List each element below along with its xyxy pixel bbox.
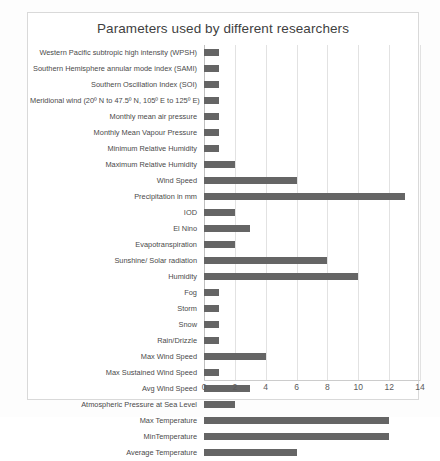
bar-row [204,109,420,125]
bar[interactable] [204,433,389,440]
x-tick-label: 4 [263,382,268,392]
category-label: Minimum Relative Humidity [30,141,200,157]
category-label: Fog [30,285,200,301]
bar-row [204,285,420,301]
bar-row [204,349,420,365]
category-label: Max Sustained Wind Speed [30,365,200,381]
x-tick-label: 12 [384,382,393,392]
bar[interactable] [204,129,219,136]
x-tick-label: 14 [415,382,424,392]
category-label: Wind Speed [30,173,200,189]
bar[interactable] [204,289,219,296]
bar-row [204,269,420,285]
bar[interactable] [204,177,297,184]
bar-row [204,61,420,77]
bar-row [204,221,420,237]
category-label: MinTemperature [30,429,200,445]
plot-area [204,45,420,381]
category-label: Southern Hemisphere annular mode index (… [30,61,200,77]
bar[interactable] [204,145,219,152]
bar[interactable] [204,305,219,312]
bar[interactable] [204,113,219,120]
bar-row [204,429,420,445]
x-tick-label: 8 [325,382,330,392]
category-label: Precipitation in mm [30,189,200,205]
bar[interactable] [204,353,266,360]
bar[interactable] [204,257,327,264]
bar-row [204,141,420,157]
bar-row [204,125,420,141]
category-label: Avg Wind Speed [30,381,200,397]
x-tick-label: 6 [294,382,299,392]
bar-row [204,397,420,413]
bar[interactable] [204,65,219,72]
category-label: Atmospheric Pressure at Sea Level [30,397,200,413]
category-label: Maximum Relative Humidity [30,157,200,173]
category-label: Meridional wind (20º N to 47.5º N, 105º … [30,93,200,109]
category-label: Monthly Mean Vapour Pressure [30,125,200,141]
bar-row [204,317,420,333]
bar-row [204,45,420,61]
category-label: Max Wind Speed [30,349,200,365]
bar-row [204,93,420,109]
bar-row [204,333,420,349]
bar[interactable] [204,81,219,88]
bar[interactable] [204,49,219,56]
bar-row [204,157,420,173]
x-tick-label: 0 [202,382,207,392]
bar-row [204,445,420,461]
bar[interactable] [204,209,235,216]
category-label: El Nino [30,221,200,237]
bar[interactable] [204,401,235,408]
bar[interactable] [204,369,219,376]
bar[interactable] [204,337,219,344]
bar-rows [204,45,420,381]
bar-row [204,237,420,253]
bar[interactable] [204,225,250,232]
category-label: Evapotranspiration [30,237,200,253]
chart-frame: Parameters used by different researchers… [27,12,419,400]
category-label: Rain/Drizzle [30,333,200,349]
x-axis-tick-labels: 02468101214 [204,381,420,397]
bar[interactable] [204,449,297,456]
chart-title: Parameters used by different researchers [28,21,418,36]
category-label: Monthly mean air pressure [30,109,200,125]
bar[interactable] [204,161,235,168]
bar-row [204,77,420,93]
bar-row [204,365,420,381]
category-label: Storm [30,301,200,317]
category-axis-labels: Western Pacific subtropic high intensity… [30,45,200,381]
bar-row [204,189,420,205]
bar-row [204,413,420,429]
category-label: Western Pacific subtropic high intensity… [30,45,200,61]
bar[interactable] [204,273,358,280]
category-label: Southern Oscillation Index (SOI) [30,77,200,93]
category-label: Humidity [30,269,200,285]
category-label: IOD [30,205,200,221]
bar-row [204,205,420,221]
category-label: Average Temperature [30,445,200,461]
bar-row [204,301,420,317]
bar-row [204,253,420,269]
category-label: Sunshine/ Solar radiation [30,253,200,269]
bar[interactable] [204,241,235,248]
x-tick-label: 2 [232,382,237,392]
category-label: Max Temperature [30,413,200,429]
category-label: Snow [30,317,200,333]
bar[interactable] [204,321,219,328]
bar[interactable] [204,193,405,200]
x-tick-label: 10 [354,382,363,392]
bar[interactable] [204,97,219,104]
gridline-14 [420,45,421,381]
bar[interactable] [204,417,389,424]
bar-row [204,173,420,189]
